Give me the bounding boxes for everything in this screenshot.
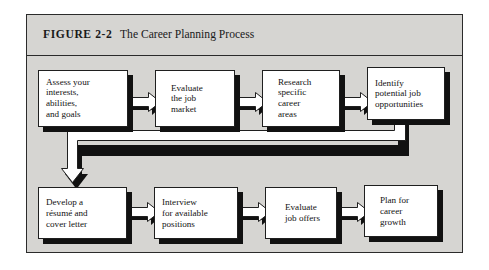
process-box-identify-jobs[interactable]: Identify potential job opportunities (367, 67, 445, 120)
figure-label: FIGURE 2-2 (43, 28, 112, 41)
process-box-assess[interactable]: Assess your interests, abilities, and go… (38, 70, 128, 127)
process-box-plan-growth[interactable]: Plan for career growth (364, 185, 438, 237)
process-box-develop-resume-label: Develop a résumé and cover letter (46, 197, 122, 229)
figure-frame: FIGURE 2-2 The Career Planning Process (26, 14, 463, 253)
process-box-interview[interactable]: Interview for available positions (154, 187, 238, 239)
figure-title-band: FIGURE 2-2 The Career Planning Process (27, 15, 462, 56)
process-box-develop-resume[interactable]: Develop a résumé and cover letter (38, 187, 127, 239)
process-box-identify-jobs-label: Identify potential job opportunities (375, 77, 440, 109)
figure-title: The Career Planning Process (120, 28, 254, 41)
figure-page: FIGURE 2-2 The Career Planning Process (0, 0, 489, 270)
process-box-research-careers[interactable]: Research specific career areas (262, 70, 340, 127)
process-box-plan-growth-label: Plan for career growth (380, 195, 433, 227)
process-box-evaluate-market-label: Evaluate the job market (171, 82, 230, 114)
process-box-evaluate-offers[interactable]: Evaluate job offers (265, 187, 337, 239)
process-box-evaluate-offers-label: Evaluate job offers (285, 202, 332, 224)
flowchart-diagram: Assess your interests, abilities, and go… (27, 56, 464, 252)
process-box-assess-label: Assess your interests, abilities, and go… (46, 77, 123, 120)
process-box-research-careers-label: Research specific career areas (278, 77, 335, 120)
process-box-interview-label: Interview for available positions (162, 197, 233, 229)
process-box-evaluate-market[interactable]: Evaluate the job market (155, 70, 235, 127)
